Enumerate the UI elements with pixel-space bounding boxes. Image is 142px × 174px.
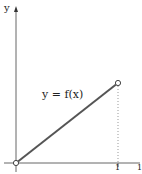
function-label: y = f(x) — [42, 89, 83, 100]
start-point-open-circle-icon — [13, 160, 18, 165]
y-axis-label: y — [4, 3, 10, 13]
x-tick-label-end: 1 — [137, 164, 142, 172]
y-axis-arrow-icon — [14, 6, 18, 12]
function-graph — [0, 0, 142, 174]
end-point-open-circle-icon — [115, 80, 120, 85]
y-axis — [14, 6, 18, 172]
x-tick-label-1: 1 — [115, 164, 120, 172]
